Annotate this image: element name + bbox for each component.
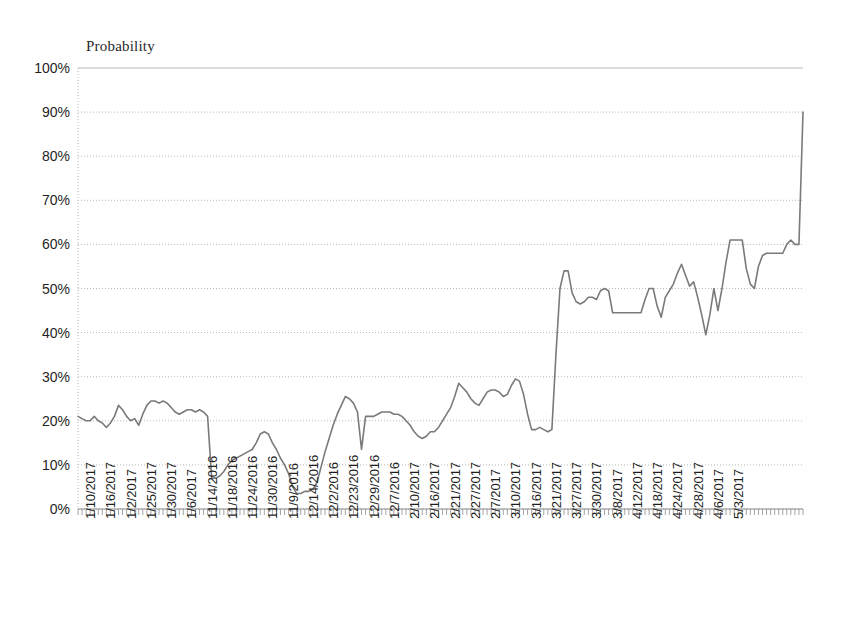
x-tick-label: 11/24/2016 xyxy=(245,456,260,519)
x-tick-label: 3/21/2017 xyxy=(549,462,564,519)
x-tick-label: 3/16/2017 xyxy=(529,462,544,519)
x-tick-label: 3/27/2017 xyxy=(569,462,584,519)
x-tick-label: 1/16/2017 xyxy=(103,462,118,519)
x-tick-label: 12/29/2016 xyxy=(367,455,382,519)
x-tick-label: 12/23/2016 xyxy=(346,455,361,519)
x-tick-label: 1/6/2017 xyxy=(184,469,199,519)
x-tick-label: 11/30/2016 xyxy=(265,456,280,519)
x-tick-label: 1/25/2017 xyxy=(144,462,159,519)
x-tick-label: 1/30/2017 xyxy=(164,462,179,519)
x-axis-tick-labels: 1/10/20171/16/20171/2/20171/25/20171/30/… xyxy=(0,0,842,632)
x-tick-label: 2/27/2017 xyxy=(468,462,483,519)
x-tick-label: 4/28/2017 xyxy=(691,462,706,519)
x-tick-label: 3/8/2017 xyxy=(610,469,625,519)
x-tick-label: 12/14/2016 xyxy=(306,455,321,519)
x-tick-label: 4/24/2017 xyxy=(670,462,685,519)
x-tick-label: 4/18/2017 xyxy=(650,462,665,519)
x-tick-label: 5/3/2017 xyxy=(731,469,746,519)
x-tick-label: 12/2/2016 xyxy=(326,462,341,519)
x-tick-label: 3/10/2017 xyxy=(508,462,523,519)
x-tick-label: 2/21/2017 xyxy=(448,462,463,519)
probability-line-chart: Probability 0%10%20%30%40%50%60%70%80%90… xyxy=(0,0,842,632)
x-tick-label: 1/10/2017 xyxy=(83,462,98,519)
x-tick-label: 2/7/2017 xyxy=(488,469,503,519)
x-tick-label: 2/10/2017 xyxy=(407,462,422,519)
x-tick-label: 11/14/2016 xyxy=(205,456,220,519)
x-tick-label: 2/16/2017 xyxy=(427,462,442,519)
x-tick-label: 4/12/2017 xyxy=(630,462,645,519)
x-tick-label: 1/2/2017 xyxy=(124,469,139,519)
x-tick-label: 11/18/2016 xyxy=(225,456,240,519)
x-tick-label: 11/9/2016 xyxy=(286,463,301,519)
x-tick-label: 12/7/2016 xyxy=(387,462,402,519)
x-tick-label: 3/30/2017 xyxy=(589,462,604,519)
x-tick-label: 4/6/2017 xyxy=(711,469,726,519)
